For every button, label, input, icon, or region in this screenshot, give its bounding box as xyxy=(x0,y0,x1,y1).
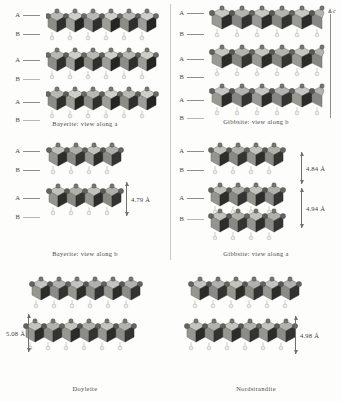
polyhedral-stack xyxy=(207,142,297,240)
panel-caption: Nordstrandite xyxy=(171,385,341,392)
layer-label: B xyxy=(178,167,204,174)
layer-leader-line xyxy=(23,34,40,35)
layer-label: A xyxy=(178,10,204,17)
layer-label: A xyxy=(178,97,204,104)
dimension-arrow xyxy=(295,316,296,354)
layer-leader-line xyxy=(187,151,204,152)
structure-drawing xyxy=(46,6,162,124)
panel-caption: Doyleite xyxy=(0,385,170,392)
dimension-value: 4.98 Å xyxy=(300,332,319,339)
layer-leader-line xyxy=(187,13,204,14)
interlayer-spacing-callout: 4.79 Å xyxy=(126,182,150,216)
layer-label: A xyxy=(14,99,40,106)
layer-leader-line xyxy=(187,100,204,101)
dimension-arrow xyxy=(301,188,302,228)
layer-label: B xyxy=(14,214,40,221)
polyhedral-stack xyxy=(22,276,156,372)
layer-leader-line xyxy=(23,102,40,103)
layer-label: B xyxy=(178,31,204,38)
crystal-structure-figure: c A B A B A xyxy=(0,0,341,402)
dimension-arrow xyxy=(301,152,302,184)
layer-label: B xyxy=(14,167,40,174)
interlayer-spacing-callout: 5.08 Å xyxy=(6,314,29,352)
layer-label: A xyxy=(178,148,204,155)
layer-label: B xyxy=(14,31,40,38)
dimension-arrow xyxy=(126,182,127,216)
panel-gibbsite-view-b: A B A B A B xyxy=(171,0,341,134)
layer-leader-line xyxy=(187,59,204,60)
panel-caption: Gibbsite: view along b xyxy=(171,118,341,125)
layer-leader-line xyxy=(23,170,40,171)
dimension-value: 4.84 Å xyxy=(306,165,325,172)
panel-doyleite: 5.08 Å Doyleite xyxy=(0,272,170,402)
layer-label: B xyxy=(178,216,204,223)
panel-caption: Bayerite: view along a xyxy=(0,120,170,127)
structure-drawing xyxy=(22,276,156,372)
structure-drawing xyxy=(46,142,128,234)
layer-label: A xyxy=(178,195,204,202)
layer-label: A xyxy=(14,148,40,155)
dimension-value: 4.94 Å xyxy=(306,205,325,212)
panel-gibbsite-view-a: A B A B 4.84 Å xyxy=(171,140,341,265)
layer-label: A xyxy=(14,195,40,202)
panel-bayerite-view-b: A B A B xyxy=(0,140,170,265)
structure-drawing xyxy=(207,142,297,240)
polyhedral-stack xyxy=(46,142,128,234)
interlayer-spacing-callout: 4.94 Å xyxy=(301,188,325,228)
layer-leader-line xyxy=(23,15,40,16)
polyhedral-stack xyxy=(209,4,329,122)
layer-leader-line xyxy=(23,60,40,61)
layer-leader-line xyxy=(187,219,204,220)
layer-leader-line xyxy=(23,79,40,80)
layer-label: B xyxy=(178,74,204,81)
layer-label: A xyxy=(14,57,40,64)
layer-leader-line xyxy=(187,170,204,171)
layer-leader-line xyxy=(187,198,204,199)
layer-leader-line xyxy=(187,34,204,35)
layer-leader-line xyxy=(187,77,204,78)
polyhedral-stack xyxy=(46,6,162,124)
interlayer-spacing-callout: 4.98 Å xyxy=(295,316,319,354)
layer-label: A xyxy=(178,56,204,63)
layer-label: A xyxy=(14,12,40,19)
interlayer-spacing-callout: 4.84 Å xyxy=(301,152,325,184)
layer-leader-line xyxy=(23,198,40,199)
layer-label: B xyxy=(14,76,40,83)
structure-drawing xyxy=(209,4,329,122)
layer-leader-line xyxy=(23,151,40,152)
panel-caption: Gibbsite: view along a xyxy=(171,250,341,257)
dimension-arrow xyxy=(28,314,29,352)
panel-caption: Bayerite: view along b xyxy=(0,250,170,257)
panel-nordstrandite: 4.98 Å Nordstrandite xyxy=(171,272,341,402)
layer-leader-line xyxy=(23,217,40,218)
panel-bayerite-view-a: A B A B A B xyxy=(0,0,170,134)
dimension-value: 4.79 Å xyxy=(131,196,150,203)
dimension-value: 5.08 Å xyxy=(6,330,25,337)
